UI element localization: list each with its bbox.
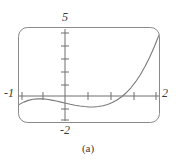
figure-caption: (a) — [0, 142, 176, 154]
plot-area — [0, 0, 176, 145]
x-axis-min-label: -1 — [4, 87, 14, 99]
y-axis-max-label: 5 — [62, 11, 68, 23]
graph-svg — [0, 0, 176, 145]
viewport-frame — [19, 28, 160, 123]
x-axis-max-label: 2 — [162, 87, 168, 99]
figure-container: 5 -1 2 -2 (a) — [0, 0, 176, 165]
y-axis-min-label: -2 — [60, 124, 70, 136]
